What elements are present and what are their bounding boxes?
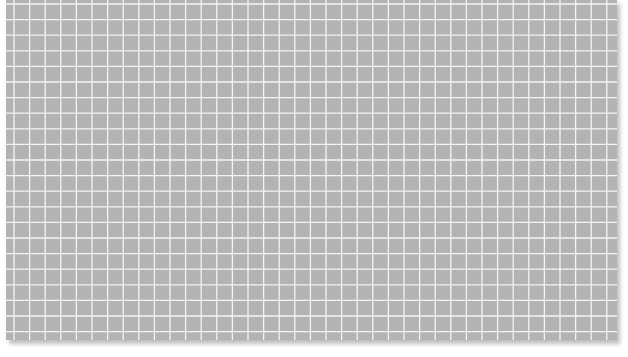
- grid-lines: [6, 0, 617, 340]
- grid-paper-sheet: [6, 0, 617, 340]
- canvas: [0, 0, 628, 357]
